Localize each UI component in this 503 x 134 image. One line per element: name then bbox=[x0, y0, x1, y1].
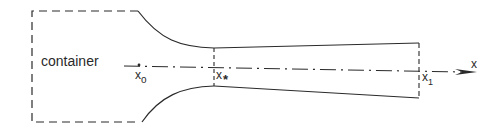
converging-wall-bottom bbox=[142, 86, 214, 122]
container-label: container bbox=[41, 53, 99, 69]
centerline-axis bbox=[124, 66, 464, 72]
nozzle-diagram: container xo x* x1 x bbox=[0, 0, 503, 134]
x0-point-marker bbox=[138, 64, 141, 67]
diverging-wall-bottom bbox=[214, 86, 419, 98]
x1-label: x1 bbox=[422, 70, 433, 87]
axis-x-label: x bbox=[471, 57, 477, 71]
diverging-wall-top bbox=[214, 43, 419, 48]
x0-label: xo bbox=[135, 68, 147, 85]
xstar-label: x* bbox=[216, 68, 229, 87]
converging-wall-top bbox=[138, 11, 214, 48]
